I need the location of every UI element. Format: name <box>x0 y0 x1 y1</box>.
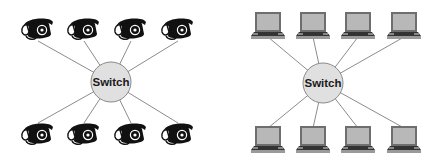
telephone-icon <box>22 19 53 40</box>
laptop-icon <box>387 12 421 39</box>
telephone-icon <box>162 124 193 145</box>
laptop-icon <box>296 12 330 39</box>
switch-label: Switch <box>92 76 129 88</box>
laptop-icon <box>341 12 375 39</box>
network-diagram: Switch Switch <box>0 0 445 162</box>
telephone-icon <box>68 124 99 145</box>
telephone-icon <box>22 124 53 145</box>
switch-hub: Switch <box>91 62 131 102</box>
telephone-icon <box>115 19 146 40</box>
laptop-icon <box>251 12 285 39</box>
telephone-icon <box>68 19 99 40</box>
telephone-icon <box>115 124 146 145</box>
computer-network-diagram: Switch <box>251 12 421 153</box>
telephone-icon <box>162 19 193 40</box>
switch-hub: Switch <box>303 63 343 103</box>
laptop-icon <box>387 126 421 153</box>
laptop-icon <box>251 126 285 153</box>
telephone-network-diagram: Switch <box>22 19 193 145</box>
laptop-icon <box>296 126 330 153</box>
laptop-icon <box>341 126 375 153</box>
switch-label: Switch <box>304 77 341 89</box>
